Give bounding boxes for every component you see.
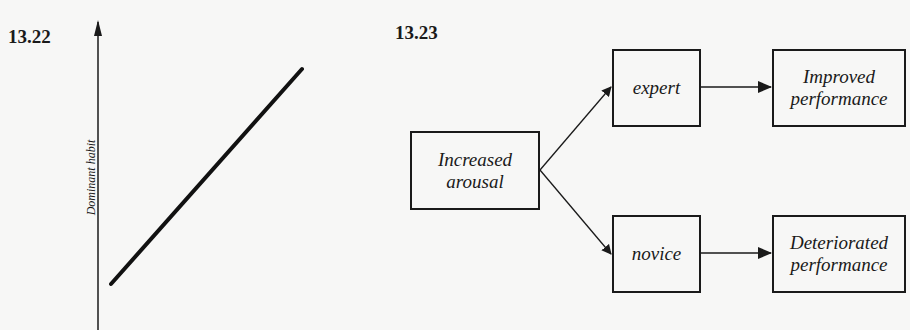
y-axis-arrow-icon: [94, 20, 102, 36]
node-deteriorated-performance: Deterioratedperformance: [772, 215, 906, 293]
node-label: Increased: [438, 149, 512, 170]
y-axis-label: Dominant habit: [84, 133, 99, 223]
edge-arousal-novice: [540, 170, 611, 254]
node-label: arousal: [446, 171, 503, 192]
node-label: novice: [632, 243, 682, 265]
node-label: performance: [790, 254, 887, 275]
node-label: Deteriorated: [790, 232, 888, 253]
node-increased-arousal: Increasedarousal: [410, 131, 540, 210]
node-label: expert: [633, 77, 680, 99]
node-novice: novice: [612, 215, 701, 293]
node-improved-performance: Improvedperformance: [772, 49, 906, 127]
trend-line: [111, 69, 302, 284]
edge-arousal-expert: [540, 87, 611, 170]
node-label: performance: [790, 88, 887, 109]
node-expert: expert: [612, 49, 701, 127]
node-label: Improved: [803, 66, 875, 87]
